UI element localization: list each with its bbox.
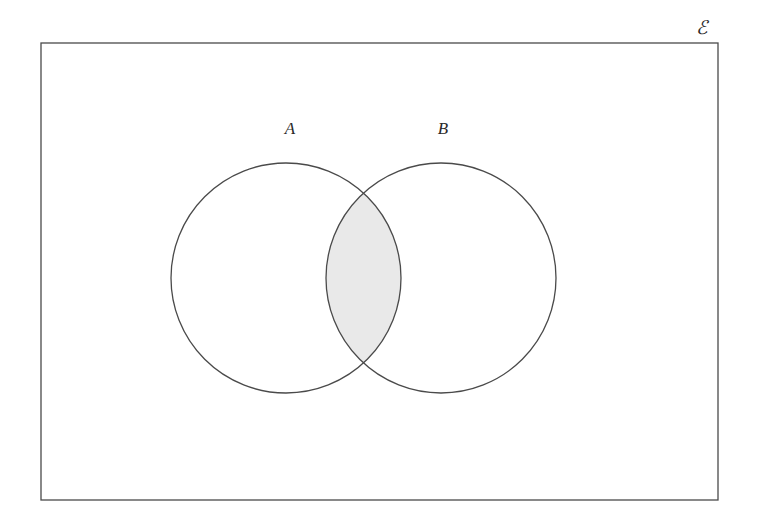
venn-diagram-figure: A B ℰ [0,0,758,525]
venn-diagram-canvas [0,0,758,525]
set-b-label: B [438,120,448,137]
set-a-label: A [285,120,295,137]
universal-set-label: ℰ [696,18,708,37]
